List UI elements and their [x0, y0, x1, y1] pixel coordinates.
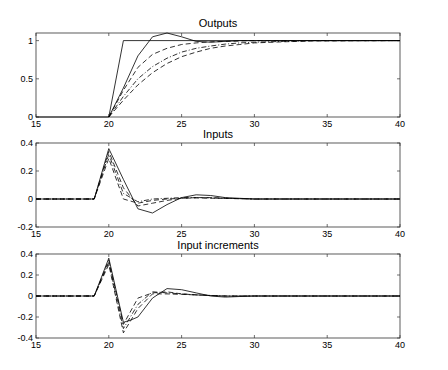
- outputs-title: Outputs: [199, 17, 238, 29]
- x-tick-label: 40: [395, 119, 405, 129]
- series-line-response-2: [109, 41, 400, 117]
- y-tick-label: 0: [28, 291, 33, 301]
- y-tick-label: 0.4: [20, 138, 33, 148]
- y-tick-label: 0.2: [20, 166, 33, 176]
- x-tick-label: 30: [249, 340, 259, 350]
- x-tick-label: 20: [104, 119, 114, 129]
- x-tick-label: 35: [322, 340, 332, 350]
- y-tick-label: 0: [28, 112, 33, 122]
- outputs-subplot: Outputs 15202530354000.51: [20, 17, 405, 129]
- y-tick-label: 0.2: [20, 270, 33, 280]
- series-line-response-1: [109, 33, 400, 117]
- series-line-response-4: [109, 41, 400, 117]
- x-tick-label: 30: [249, 229, 259, 239]
- y-tick-label: 1: [28, 36, 33, 46]
- x-tick-label: 40: [395, 229, 405, 239]
- x-tick-label: 30: [249, 119, 259, 129]
- series-line-input-1: [36, 149, 400, 213]
- series-line-increment-4: [36, 265, 400, 333]
- axes-box: [36, 143, 400, 227]
- series-line-response-3: [109, 41, 400, 117]
- input-increments-title: Input increments: [177, 239, 259, 251]
- axes-box: [36, 33, 400, 117]
- x-tick-label: 40: [395, 340, 405, 350]
- y-tick-label: 0.5: [20, 74, 33, 84]
- y-tick-label: 0.4: [20, 249, 33, 259]
- y-tick-label: -0.4: [17, 333, 33, 343]
- x-tick-label: 20: [104, 340, 114, 350]
- x-tick-label: 25: [177, 229, 187, 239]
- figure-canvas: Outputs 15202530354000.51 Inputs 1520253…: [0, 0, 448, 370]
- x-tick-label: 35: [322, 229, 332, 239]
- input-increments-subplot: Input increments 152025303540-0.4-0.200.…: [17, 239, 405, 350]
- series-line-increment-1: [36, 258, 400, 322]
- series-line-reference: [36, 41, 400, 117]
- inputs-title: Inputs: [203, 128, 233, 140]
- y-tick-label: -0.2: [17, 222, 33, 232]
- x-tick-label: 25: [177, 340, 187, 350]
- y-tick-label: 0: [28, 194, 33, 204]
- y-tick-label: -0.2: [17, 312, 33, 322]
- figure: Outputs 15202530354000.51 Inputs 1520253…: [0, 0, 448, 370]
- x-tick-label: 20: [104, 229, 114, 239]
- inputs-subplot: Inputs 152025303540-0.200.20.4: [17, 128, 405, 239]
- series-line-input-3: [36, 154, 400, 202]
- x-tick-label: 35: [322, 119, 332, 129]
- series-line-increment-2: [36, 260, 400, 324]
- x-tick-label: 25: [177, 119, 187, 129]
